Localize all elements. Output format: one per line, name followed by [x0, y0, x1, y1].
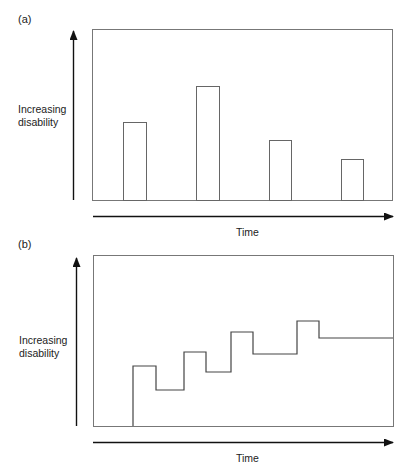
- figure-canvas: [0, 0, 409, 476]
- clipped-caption: [18, 471, 408, 476]
- bar-3: [270, 141, 292, 201]
- panel-b: [77, 256, 394, 443]
- bar-1: [124, 123, 147, 201]
- panel-b-frame: [94, 256, 394, 427]
- disability-step-line: [133, 321, 393, 426]
- bar-2: [197, 87, 220, 201]
- bar-4: [342, 160, 364, 201]
- panel-a: [74, 30, 394, 217]
